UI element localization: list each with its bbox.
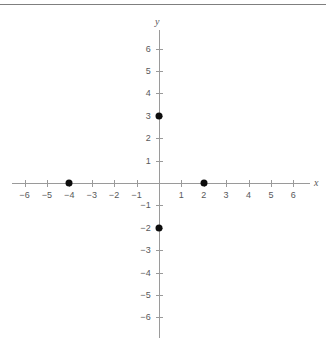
y-tick-label: 1	[137, 156, 151, 165]
y-tick-mark	[156, 295, 163, 296]
y-tick-mark	[156, 71, 163, 72]
data-point	[66, 180, 73, 187]
y-tick-label: −5	[137, 291, 151, 300]
x-tick-label: −5	[42, 191, 53, 200]
x-tick-label: 4	[246, 191, 251, 200]
coordinate-plane-figure: x y −6−5−4−3−2−1123456 654321−1−2−3−4−5−…	[0, 0, 326, 354]
data-point	[156, 112, 163, 119]
y-tick-label: −4	[137, 268, 151, 277]
cartesian-plot-area: x y −6−5−4−3−2−1123456 654321−1−2−3−4−5−…	[0, 0, 326, 354]
x-tick-label: −4	[64, 191, 75, 200]
y-tick-mark	[156, 205, 163, 206]
x-tick-mark	[137, 180, 138, 187]
data-point	[200, 180, 207, 187]
y-tick-label: −2	[137, 223, 151, 232]
y-tick-mark	[156, 317, 163, 318]
x-tick-label: 2	[201, 191, 206, 200]
x-tick-label: −6	[19, 191, 30, 200]
x-tick-label: −1	[131, 191, 142, 200]
y-tick-mark	[156, 93, 163, 94]
x-tick-mark	[226, 180, 227, 187]
x-tick-mark	[25, 180, 26, 187]
x-tick-label: −3	[86, 191, 97, 200]
y-tick-mark	[156, 49, 163, 50]
y-tick-mark	[156, 138, 163, 139]
y-axis-line	[159, 30, 160, 338]
y-tick-label: −3	[137, 246, 151, 255]
y-tick-mark	[156, 273, 163, 274]
y-tick-mark	[156, 161, 163, 162]
y-tick-label: 5	[137, 67, 151, 76]
x-tick-label: 1	[179, 191, 184, 200]
y-tick-label: 2	[137, 134, 151, 143]
y-tick-label: 4	[137, 89, 151, 98]
x-tick-mark	[114, 180, 115, 187]
x-axis-line	[12, 183, 310, 184]
x-tick-mark	[47, 180, 48, 187]
x-tick-mark	[92, 180, 93, 187]
x-tick-label: 6	[291, 191, 296, 200]
x-tick-label: 3	[224, 191, 229, 200]
x-tick-mark	[271, 180, 272, 187]
x-tick-label: −2	[109, 191, 120, 200]
data-point	[156, 224, 163, 231]
x-tick-label: 5	[268, 191, 273, 200]
y-tick-label: −1	[137, 201, 151, 210]
y-tick-mark	[156, 250, 163, 251]
y-tick-label: −6	[137, 313, 151, 322]
x-tick-mark	[181, 180, 182, 187]
y-tick-label: 3	[137, 111, 151, 120]
x-tick-mark	[249, 180, 250, 187]
x-tick-mark	[293, 180, 294, 187]
y-tick-label: 6	[137, 44, 151, 53]
y-axis-label: y	[155, 17, 159, 27]
x-axis-label: x	[314, 178, 318, 188]
